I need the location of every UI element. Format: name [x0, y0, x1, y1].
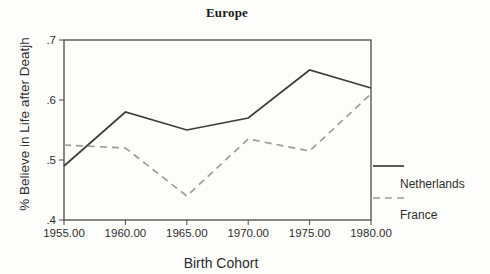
x-tick-label: 1955.00: [43, 227, 85, 239]
x-tick-label: 1975.00: [289, 227, 331, 239]
chart-figure: Europe % Believe in Life after Deatjh .4…: [0, 0, 490, 274]
x-axis-title: Birth Cohort: [184, 255, 259, 271]
series-line-france: [64, 94, 371, 196]
legend-label-netherlands: Netherlands: [400, 177, 465, 191]
y-tick-label: .4: [46, 214, 56, 226]
x-tick-label: 1980.00: [350, 227, 392, 239]
y-tick-label: .7: [46, 34, 56, 46]
x-tick-label: 1965.00: [166, 227, 208, 239]
y-tick-label: .6: [46, 94, 56, 106]
plot-frame: [64, 40, 371, 220]
line-chart-canvas: .4.5.6.71955.001960.001965.001970.001975…: [0, 0, 490, 274]
x-tick-label: 1970.00: [227, 227, 269, 239]
legend-label-france: France: [400, 208, 438, 222]
x-tick-label: 1960.00: [105, 227, 147, 239]
series-line-netherlands: [64, 70, 371, 166]
y-tick-label: .5: [46, 154, 56, 166]
